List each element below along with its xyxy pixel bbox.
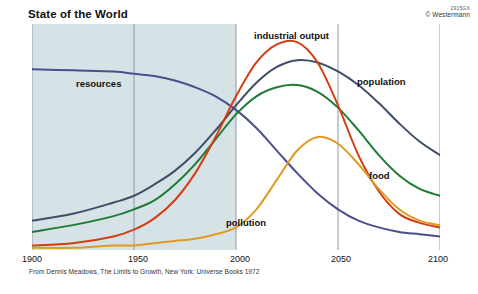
x-tick-1950: 1950 <box>128 254 148 264</box>
credit-block: 2915GX © Westermann <box>425 5 470 19</box>
x-tick-2050: 2050 <box>331 254 351 264</box>
chart-page: State of the World 2915GX © Westermann r… <box>0 0 478 294</box>
source-note: From Dennis Meadows, The Limits to Growt… <box>29 268 259 275</box>
series-label-industrial-output: industrial output <box>254 30 329 41</box>
plot-area: resources industrial output population f… <box>32 24 440 250</box>
series-label-food: food <box>369 170 390 181</box>
credit-owner: © Westermann <box>425 11 470 19</box>
series-label-resources: resources <box>76 78 121 89</box>
x-tick-2000: 2000 <box>230 254 250 264</box>
x-tick-2100: 2100 <box>428 254 448 264</box>
series-label-population: population <box>357 76 406 87</box>
series-label-pollution: pollution <box>226 217 266 228</box>
x-tick-1900: 1900 <box>22 254 42 264</box>
page-title: State of the World <box>28 8 128 20</box>
